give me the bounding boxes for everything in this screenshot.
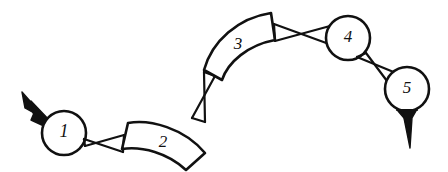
kinematic-chain-diagram: 1 2 3	[0, 0, 448, 172]
member-5[interactable]: 5	[385, 67, 429, 111]
member-2-label: 2	[159, 132, 168, 151]
member-5-label: 5	[403, 78, 412, 97]
member-4-label: 4	[344, 27, 353, 46]
member-3-label: 3	[233, 34, 243, 53]
member-1-label: 1	[60, 121, 69, 141]
member-1[interactable]: 1	[42, 111, 86, 155]
joint-2-3-lower-arm	[204, 72, 205, 122]
diagram-canvas: 1 2 3	[0, 0, 448, 172]
joint-1-2-left-edge	[84, 139, 85, 146]
joint-3-4-left-edge	[274, 24, 275, 41]
